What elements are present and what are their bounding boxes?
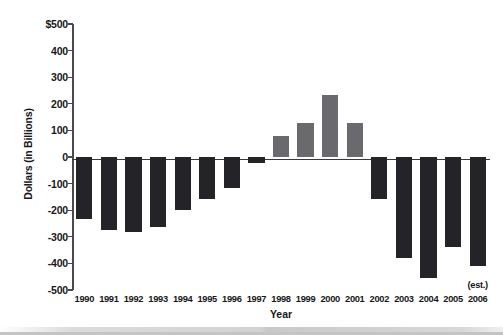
bar-2005 — [445, 157, 461, 247]
y-tick-mark — [68, 130, 73, 131]
bar-1994 — [175, 157, 191, 210]
y-tick-label: 300 — [51, 71, 68, 83]
plot-area: $5004003002001000-100-200-300-400-500 19… — [72, 24, 490, 290]
y-tick-mark — [68, 289, 73, 290]
bar-1993 — [150, 157, 166, 227]
x-tick-label-2006: 2006 — [468, 294, 487, 304]
bar-2002 — [371, 157, 387, 199]
y-axis-title: Dollars (in Billions) — [22, 74, 34, 234]
x-tick-label-2000: 2000 — [320, 294, 339, 304]
x-tick-label-2002: 2002 — [370, 294, 389, 304]
x-tick-label-2004: 2004 — [419, 294, 438, 304]
y-tick-label: -500 — [48, 284, 68, 296]
x-tick-label-1993: 1993 — [148, 294, 167, 304]
bar-2000 — [322, 95, 338, 157]
y-tick-mark — [68, 103, 73, 104]
y-tick-mark — [68, 236, 73, 237]
y-tick-label: -300 — [48, 231, 68, 243]
x-tick-label-2001: 2001 — [345, 294, 364, 304]
y-tick-mark — [68, 210, 73, 211]
bar-1996 — [224, 157, 240, 188]
x-tick-label-2005: 2005 — [443, 294, 462, 304]
x-tick-label-1991: 1991 — [99, 294, 118, 304]
bar-1992 — [125, 157, 141, 232]
y-tick-label: 100 — [51, 124, 68, 136]
bar-2001 — [347, 123, 363, 157]
bar-1999 — [297, 123, 313, 157]
y-tick-mark — [68, 183, 73, 184]
x-tick-label-1997: 1997 — [247, 294, 266, 304]
x-tick-label-1992: 1992 — [124, 294, 143, 304]
y-tick-label: -100 — [48, 178, 68, 190]
y-tick-label: -400 — [48, 257, 68, 269]
chart-figure: Dollars (in Billions) $5004003002001000-… — [0, 0, 503, 335]
bar-2006 — [470, 157, 486, 266]
annotation-est: (est.) — [467, 280, 487, 290]
x-tick-label-1994: 1994 — [173, 294, 192, 304]
x-axis-title: Year — [72, 308, 490, 320]
bar-1991 — [101, 157, 117, 230]
y-tick-label: 0 — [62, 151, 68, 163]
y-tick-label: 200 — [51, 98, 68, 110]
y-tick-label: 400 — [51, 45, 68, 57]
bar-2003 — [396, 157, 412, 258]
x-tick-label-2003: 2003 — [394, 294, 413, 304]
x-tick-label-1995: 1995 — [197, 294, 216, 304]
x-tick-label-1990: 1990 — [75, 294, 94, 304]
y-tick-label: -200 — [48, 204, 68, 216]
y-tick-mark — [68, 77, 73, 78]
y-tick-mark — [68, 23, 73, 24]
bar-1995 — [199, 157, 215, 199]
y-tick-mark — [68, 50, 73, 51]
bar-1998 — [273, 136, 289, 157]
bar-1997 — [248, 157, 264, 163]
y-tick-mark — [68, 263, 73, 264]
x-tick-label-1998: 1998 — [271, 294, 290, 304]
x-tick-label-1999: 1999 — [296, 294, 315, 304]
bar-1990 — [76, 157, 92, 219]
y-tick-label: $500 — [45, 18, 68, 30]
x-tick-label-1996: 1996 — [222, 294, 241, 304]
y-tick-mark — [68, 156, 73, 157]
bar-2004 — [420, 157, 436, 278]
